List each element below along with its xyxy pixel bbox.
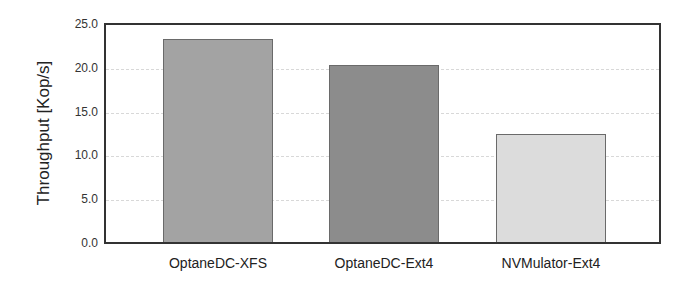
y-tick-label: 15.0 <box>54 106 98 118</box>
bar-optanedc-ext4 <box>329 65 439 242</box>
plot-area <box>104 23 661 244</box>
x-tick-label: OptaneDC-XFS <box>169 255 267 271</box>
y-tick-label: 20.0 <box>54 62 98 74</box>
bar-nvmulator-ext4 <box>496 134 606 242</box>
y-tick-label: 10.0 <box>54 149 98 161</box>
y-tick-label: 0.0 <box>54 237 98 249</box>
y-tick-label: 25.0 <box>54 18 98 30</box>
x-tick-label: OptaneDC-Ext4 <box>335 255 434 271</box>
y-axis-label: Throughput [Kop/s] <box>34 61 54 206</box>
throughput-bar-chart: Throughput [Kop/s] 0.05.010.015.020.025.… <box>0 0 696 288</box>
y-tick-label: 5.0 <box>54 193 98 205</box>
x-tick-label: NVMulator-Ext4 <box>502 255 601 271</box>
bar-optanedc-xfs <box>163 39 273 242</box>
